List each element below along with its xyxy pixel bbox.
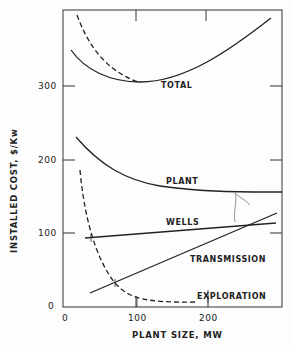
label-wells: WELLS <box>166 218 199 227</box>
x-axis-label: PLANT SIZE, MW <box>132 330 223 340</box>
y-tick-100: 100 <box>38 228 57 238</box>
y-tick-300: 300 <box>38 81 57 91</box>
total-dashed-curve <box>77 15 138 82</box>
label-transmission: TRANSMISSION <box>190 255 266 264</box>
bracket-mark <box>235 193 250 222</box>
total-curve <box>71 18 271 82</box>
x-tick-0: 0 <box>62 313 68 323</box>
x-tick-200: 200 <box>199 313 218 323</box>
cost-chart: 300 200 100 0 0 100 200 PLANT SIZE, MW I… <box>0 0 291 349</box>
y-tick-0: 0 <box>48 301 54 311</box>
intersection-marks <box>91 234 208 307</box>
y-tick-200: 200 <box>38 155 57 165</box>
label-plant: PLANT <box>166 177 198 186</box>
label-exploration: EXPLORATION <box>197 292 266 301</box>
y-axis-label: INSTALLED COST, $/Kw <box>9 128 19 253</box>
x-tick-100: 100 <box>128 313 147 323</box>
exploration-curve <box>80 170 195 302</box>
label-total: TOTAL <box>161 81 192 90</box>
